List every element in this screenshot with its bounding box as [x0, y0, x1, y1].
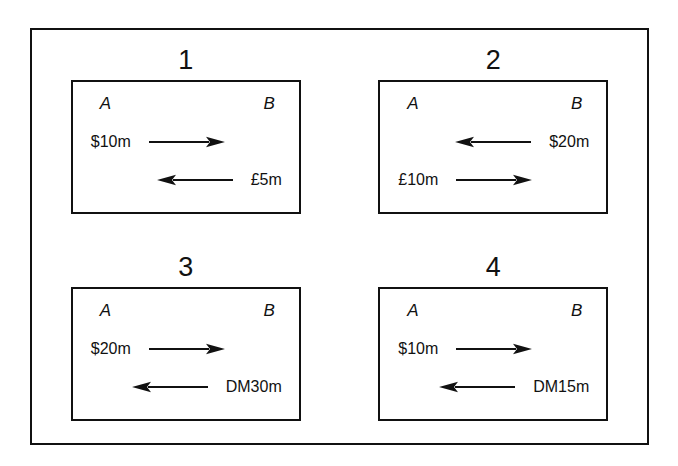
panel-box: A B $20m DM30m: [71, 287, 301, 421]
endpoint-label-a: A: [100, 95, 111, 112]
flow-row: DM15m: [388, 376, 598, 398]
arrow-left-icon: [438, 378, 516, 396]
flow-row: $10m: [81, 131, 291, 153]
panel-grid: 1 A B $10m £5m 2: [32, 30, 647, 443]
figure-root: 1 A B $10m £5m 2: [0, 0, 678, 466]
flow-amount-label: DM30m: [226, 379, 282, 395]
flow-row: $20m: [81, 338, 291, 360]
arrow-right-icon: [148, 340, 226, 358]
flow-amount-label: $10m: [91, 134, 131, 150]
flow-amount-label: $10m: [398, 341, 438, 357]
endpoint-label-b: B: [263, 95, 274, 112]
flow-row: DM30m: [81, 376, 291, 398]
endpoint-label-a: A: [407, 302, 418, 319]
flow-row: $10m: [388, 338, 598, 360]
flow-amount-label: $20m: [91, 341, 131, 357]
flow-amount-label: DM15m: [533, 379, 589, 395]
endpoint-label-b: B: [571, 302, 582, 319]
flow-row: $20m: [388, 131, 598, 153]
panel-2: 2 A B $20m £10m: [340, 30, 648, 237]
panel-number: 1: [178, 47, 193, 74]
panel-4: 4 A B $10m DM15m: [340, 237, 648, 444]
flow-amount-label: £10m: [398, 172, 438, 188]
arrow-left-icon: [454, 133, 532, 151]
flow-row: £10m: [388, 169, 598, 191]
flow-amount-label: £5m: [251, 172, 282, 188]
panel-number: 4: [486, 254, 501, 281]
panel-number: 2: [486, 47, 501, 74]
panel-box: A B $10m £5m: [71, 80, 301, 214]
panel-box: A B $20m £10m: [378, 80, 608, 214]
endpoint-label-b: B: [571, 95, 582, 112]
panel-box: A B $10m DM15m: [378, 287, 608, 421]
arrow-left-icon: [156, 171, 234, 189]
panel-number: 3: [178, 254, 193, 281]
flow-amount-label: $20m: [549, 134, 589, 150]
arrow-right-icon: [455, 340, 533, 358]
endpoint-label-b: B: [263, 302, 274, 319]
panel-1: 1 A B $10m £5m: [32, 30, 340, 237]
endpoint-label-a: A: [407, 95, 418, 112]
arrow-left-icon: [131, 378, 209, 396]
endpoint-label-a: A: [100, 302, 111, 319]
outer-frame: 1 A B $10m £5m 2: [30, 28, 649, 445]
arrow-right-icon: [148, 133, 226, 151]
panel-3: 3 A B $20m DM30m: [32, 237, 340, 444]
arrow-right-icon: [455, 171, 533, 189]
flow-row: £5m: [81, 169, 291, 191]
